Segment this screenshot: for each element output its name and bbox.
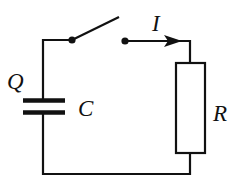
label-charge: Q <box>7 69 24 94</box>
switch-contact-right <box>121 37 128 44</box>
wire-top-left <box>43 40 72 100</box>
wire-bottom <box>43 113 190 174</box>
resistor <box>176 63 205 153</box>
label-resistance: R <box>212 101 227 126</box>
switch-arm <box>72 17 119 40</box>
wire-top-right <box>125 41 190 63</box>
label-current: I <box>151 11 161 36</box>
label-capacitance: C <box>78 96 94 121</box>
switch-contact-left <box>68 36 75 43</box>
rc-circuit-diagram: Q C I R <box>0 0 243 183</box>
